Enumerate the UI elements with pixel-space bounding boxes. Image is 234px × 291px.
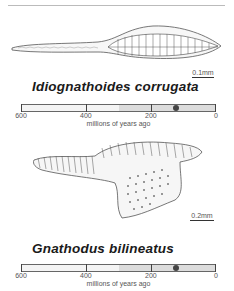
tick-label: 600 [15,112,27,119]
tick [151,264,152,272]
scale-bar-label: 0.2mm [190,212,214,219]
tick-label: 600 [15,272,27,279]
scale-bar-line [190,220,214,221]
species-name: Gnathodus bilineatus [32,241,174,256]
species-name: Idiognathoides corrugata [32,79,199,94]
scale-bar-line [192,77,214,78]
timeline-caption: millions of years ago [21,120,216,127]
geologic-timeline-2: 600 400 200 0 millions of years ago [21,264,216,287]
tick [86,264,87,272]
tick [151,104,152,112]
scale-bar-2: 0.2mm [190,212,214,221]
tick-label: 400 [80,112,92,119]
timeline-labels: 600 400 200 0 [21,272,216,280]
timeline-bar [21,104,216,112]
tick [215,264,216,272]
tick [86,104,87,112]
timeline-caption: millions of years ago [21,280,216,287]
timeline-bar [21,264,216,272]
scale-bar-label: 0.1mm [192,69,214,76]
tick-label: 200 [145,272,157,279]
gnathodus-fossil-illustration [30,138,205,220]
idiognathoides-fossil-illustration [8,22,223,64]
top-divider [8,5,225,6]
tick [21,104,22,112]
geologic-timeline-1: 600 400 200 0 millions of years ago [21,104,216,127]
tick-label: 0 [214,272,218,279]
range-shade [119,265,216,271]
tick [21,264,22,272]
tick-label: 0 [214,112,218,119]
scale-bar-1: 0.1mm [192,69,214,78]
range-shade [119,105,216,111]
tick-label: 400 [80,272,92,279]
tick-label: 200 [145,112,157,119]
tick [215,104,216,112]
timeline-labels: 600 400 200 0 [21,112,216,120]
